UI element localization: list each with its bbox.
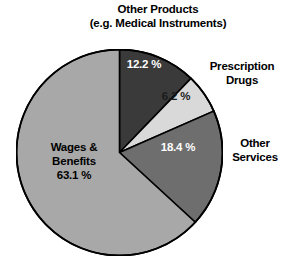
prescription-label-line-1: Prescription	[210, 60, 275, 72]
slice-label-prescription-drugs: Prescription Drugs	[196, 60, 288, 87]
slice-value-other-products: 12.2 %	[116, 58, 172, 72]
other-services-label-line-1: Other	[240, 137, 270, 149]
wages-label-line-2: Benefits	[28, 154, 120, 168]
chart-title-line-2: (e.g. Medical Instruments)	[58, 17, 258, 31]
slice-label-wages-benefits: Wages & Benefits 63.1 %	[28, 140, 120, 182]
slice-value-wages-benefits: 63.1 %	[28, 168, 120, 182]
wages-label-line-1: Wages &	[28, 140, 120, 154]
pie-chart-figure: Other Products (e.g. Medical Instruments…	[0, 0, 290, 267]
slice-value-other-services: 18.4 %	[150, 141, 206, 155]
slice-value-prescription-drugs: 6.2 %	[152, 90, 200, 104]
chart-title-line-1: Other Products	[78, 3, 238, 17]
slice-label-other-services: Other Services	[224, 137, 286, 164]
other-services-label-line-2: Services	[232, 151, 278, 163]
prescription-label-line-2: Drugs	[226, 74, 258, 86]
